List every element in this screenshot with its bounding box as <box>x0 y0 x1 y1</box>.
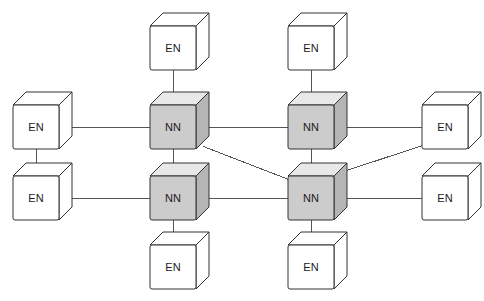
node-label: EN <box>165 261 180 273</box>
node-label: NN <box>165 192 181 204</box>
node-nn-bottom-left[interactable]: NN <box>150 163 209 220</box>
connection-link <box>203 146 290 180</box>
node-label: EN <box>437 121 452 133</box>
node-en-left-lower[interactable]: EN <box>13 163 72 220</box>
node-en-right-upper[interactable]: EN <box>422 92 481 149</box>
node-en-right-lower[interactable]: EN <box>422 163 481 220</box>
node-label: EN <box>437 192 452 204</box>
node-label: NN <box>303 192 319 204</box>
node-nn-top-right[interactable]: NN <box>288 92 347 149</box>
node-label: EN <box>28 121 43 133</box>
node-nn-top-left[interactable]: NN <box>150 92 209 149</box>
node-en-left-upper[interactable]: EN <box>13 92 72 149</box>
nodes-layer: ENENENNNNNENENNNNNENENEN <box>13 13 481 289</box>
node-label: EN <box>165 42 180 54</box>
node-label: EN <box>303 42 318 54</box>
node-label: NN <box>303 121 319 133</box>
diagram-canvas: ENENENNNNNENENNNNNENENEN <box>0 0 484 301</box>
network-topology-diagram: ENENENNNNNENENNNNNENENEN <box>0 0 484 301</box>
node-en-bottom-left[interactable]: EN <box>150 232 209 289</box>
node-nn-bottom-right[interactable]: NN <box>288 163 347 220</box>
node-en-bottom-right[interactable]: EN <box>288 232 347 289</box>
connection-link <box>342 145 424 172</box>
links-layer <box>36 70 424 245</box>
node-en-top-left[interactable]: EN <box>150 13 209 70</box>
node-label: EN <box>303 261 318 273</box>
node-label: NN <box>165 121 181 133</box>
node-en-top-right[interactable]: EN <box>288 13 347 70</box>
node-label: EN <box>28 192 43 204</box>
